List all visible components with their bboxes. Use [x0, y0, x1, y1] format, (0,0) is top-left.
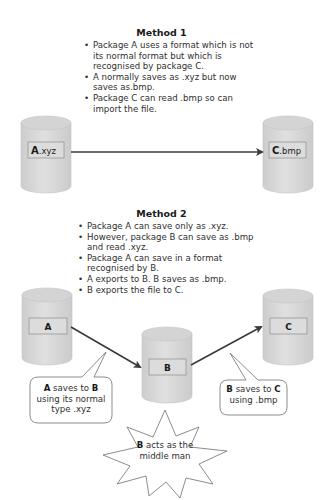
callout-text-fragment: saves to: [50, 383, 91, 393]
callout-bold-c: C: [274, 384, 280, 394]
middle-man-text: B acts as the middle man: [125, 440, 205, 461]
callout-text-fragment: using its normal type .xyz: [35, 394, 107, 415]
callout-a-to-b-text: A saves to B using its normal type .xyz: [30, 383, 112, 415]
method2-label-b: B: [164, 363, 171, 373]
diagram-canvas: A.xyz C.bmp A B C: [0, 0, 323, 500]
callout-text-fragment: using .bmp: [230, 395, 278, 405]
callout-b-to-c-text: B saves to C using .bmp: [220, 384, 287, 405]
callout-bold-b: B: [92, 383, 99, 393]
method1-cylinder-a: A.xyz: [21, 116, 71, 193]
method1-cylinder-c: C.bmp: [263, 116, 313, 193]
method2-arrow-a-to-b: [71, 327, 140, 367]
method2-label-c: C: [285, 322, 292, 332]
method2-arrow-b-to-c: [191, 327, 261, 365]
method2-cylinder-a: A: [22, 288, 72, 365]
method2-cylinder-b: B: [142, 327, 192, 403]
callout-text-fragment: acts as the: [143, 440, 193, 450]
callout-text-fragment: middle man: [139, 451, 190, 461]
method1-label-a: A.xyz: [31, 145, 57, 156]
method2-label-a: A: [45, 322, 52, 332]
callout-text-fragment: saves to: [233, 384, 274, 394]
method2-cylinder-c: C: [263, 289, 313, 365]
method1-label-c: C.bmp: [272, 145, 301, 156]
